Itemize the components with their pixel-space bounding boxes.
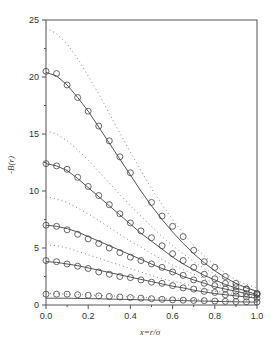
x-tick-label: 0.8 [209,311,222,321]
x-axis-label: x=r/σ [139,327,161,337]
data-marker [212,289,218,295]
data-marker [159,243,165,249]
y-tick-label: 25 [29,15,39,25]
x-tick-label: 0.6 [166,311,179,321]
data-marker [54,259,60,265]
data-marker [180,258,186,264]
dotted-1-line [46,28,257,288]
y-tick-label: 15 [29,129,39,139]
y-axis-label: -B(r) [6,156,16,174]
data-marker [170,251,176,257]
data-marker [149,296,155,302]
data-marker [149,235,155,241]
data-marker [75,292,81,298]
data-marker [106,293,112,299]
x-tick-label: 0.0 [40,311,53,321]
data-marker [180,234,186,240]
solid-2-line [46,164,257,295]
x-tick-label: 0.4 [124,311,137,321]
data-marker [85,183,91,189]
data-marker [106,202,112,208]
y-tick-label: 10 [29,186,39,196]
data-marker [159,296,165,302]
plot-border [46,20,257,305]
solid-1-line [46,72,257,291]
data-marker [201,259,207,265]
data-marker [96,123,102,129]
x-tick-label: 0.2 [82,311,95,321]
data-marker [138,295,144,301]
x-tick-label: 1.0 [251,311,264,321]
y-tick-label: 5 [34,243,39,253]
data-series [43,28,260,305]
data-marker [96,193,102,199]
data-marker [127,220,133,226]
data-marker [64,291,70,297]
data-marker [117,211,123,217]
data-marker [64,227,70,233]
y-tick-label: 0 [34,300,39,310]
plot-frame [46,20,257,305]
data-marker [212,264,218,270]
y-tick-label: 20 [29,72,39,82]
chart: 0.00.20.40.60.81.00510152025 x=r/σ -B(r) [0,0,273,349]
data-marker [170,297,176,303]
data-marker [170,223,176,229]
